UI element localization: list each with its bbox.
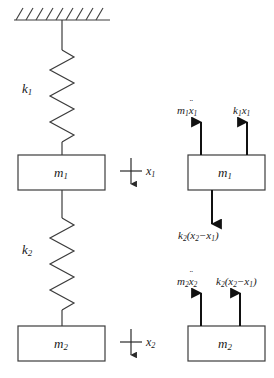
mass-m2-label-sub: 2 [63,342,67,352]
fbd-m1-inertia-force-label: m1¨x1 [177,105,197,117]
fbd-m2-spring-k2-force-label: k2(x2−x1) [216,276,257,288]
mass-m2-label: m2 [54,337,68,352]
fbd-m1-spring-k1-force-label: k1x1 [233,105,250,117]
displacement-x1-arrow [120,158,142,184]
ceiling-hatch-marks [16,8,103,20]
diagram-canvas [0,0,274,378]
double-overdot-icon: ¨ [190,100,193,109]
fixed-ceiling [14,8,110,20]
mass-m1-label-base: m [54,165,63,180]
physics-diagram: k1 k2 m1 m2 x1 x2 m1 m2 m1¨x1 k1x1 k2(x2… [0,0,274,378]
inertia-m1-var-sub: 1 [194,109,198,118]
spring-k2 [50,190,74,326]
spring-k2-label-sub: 2 [28,248,32,258]
inertia-m2-base: m [177,275,185,287]
spring-k1 [50,20,74,155]
mass-m1-label-sub: 1 [63,171,67,181]
spring-k2-label: k2 [22,243,32,258]
double-overdot-icon: ¨ [190,271,193,280]
spring-k1-label: k1 [22,82,32,97]
spring-k1-label-sub: 1 [28,87,32,97]
inertia-m2-var-with-dots: ¨x [189,276,194,287]
fbd-m1-mass-label: m1 [218,166,232,181]
fbd-m2-inertia-force-label: m2¨x2 [177,276,197,288]
inertia-m1-base: m [177,104,185,116]
k2dx2-close-paren: ) [253,275,257,287]
inertia-m1-var-with-dots: ¨x [189,105,194,116]
displacement-x2-arrow [120,329,142,355]
displacement-x2-label-sub: 2 [151,341,155,350]
fbd-m1-spring-k2-force-label: k2(x2−x1) [178,230,219,242]
displacement-x1-label: x1 [146,165,155,179]
inertia-m2-var-sub: 2 [194,280,198,289]
mass-m1-label: m1 [54,166,68,181]
fbd-m2-mass-label-sub: 2 [227,342,231,352]
fbd-m1-mass-label-base: m [218,165,227,180]
fbd-m2-mass-label: m2 [218,337,232,352]
mass-m2-label-base: m [54,336,63,351]
displacement-x1-label-sub: 1 [151,170,155,179]
displacement-x2-label: x2 [146,336,155,350]
fbd-m1-mass-label-sub: 1 [227,171,231,181]
fbd-m2-mass-label-base: m [218,336,227,351]
k2dx-close-paren: ) [215,229,219,241]
k1x1-var-sub: 1 [247,109,251,118]
